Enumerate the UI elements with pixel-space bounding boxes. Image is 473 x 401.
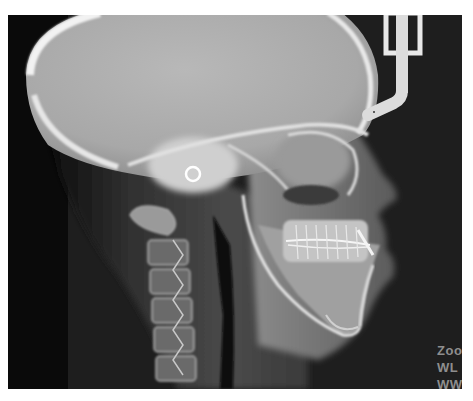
viewer-overlay-info: Zoo WL WW <box>437 342 462 389</box>
xray-viewer[interactable]: Zoo WL WW <box>8 15 462 389</box>
window-level-label: WL <box>437 359 462 376</box>
cephalometric-xray-image <box>8 15 462 389</box>
window-width-label: WW <box>437 376 462 389</box>
zoom-label: Zoo <box>437 342 462 359</box>
